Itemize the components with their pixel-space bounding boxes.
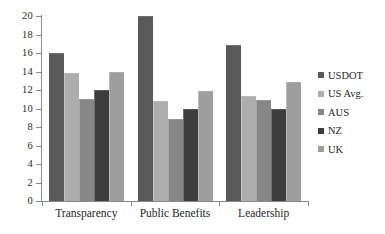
x-axis-tick: [219, 201, 220, 206]
plot-area: [42, 16, 308, 201]
y-axis-tick-label: 6: [0, 141, 33, 152]
x-axis-tick: [308, 201, 309, 206]
legend-swatch-icon: [318, 146, 324, 152]
bar-group: [49, 16, 124, 201]
y-axis-tick-label: 12: [0, 85, 33, 96]
bar: [198, 91, 213, 201]
chart-legend: USDOTUS Avg.AUSNZUK: [318, 66, 385, 159]
y-axis-tick-label: 8: [0, 122, 33, 133]
legend-item-us-avg[interactable]: US Avg.: [318, 85, 385, 104]
y-axis-tick-label: 16: [0, 48, 33, 59]
x-axis-line: [41, 201, 309, 202]
bar: [286, 82, 301, 201]
bar: [183, 109, 198, 202]
y-axis-tick-label: 14: [0, 67, 33, 78]
bar: [109, 72, 124, 202]
bar: [153, 101, 168, 201]
legend-item-label: USDOT: [328, 70, 363, 81]
bar-chart: 20181614121086420 USDOTUS Avg.AUSNZUK Tr…: [0, 0, 385, 234]
bar-group: [226, 16, 301, 201]
x-axis-tick: [131, 201, 132, 206]
y-axis-tick-label: 4: [0, 159, 33, 170]
y-axis-tick-label: 2: [0, 178, 33, 189]
legend-swatch-icon: [318, 128, 324, 134]
y-axis-tick-label: 0: [0, 196, 33, 207]
y-axis-tick-label: 20: [0, 11, 33, 22]
bar: [271, 109, 286, 201]
y-axis-tick-label: 10: [0, 104, 33, 115]
bar: [168, 119, 183, 201]
bar: [64, 73, 79, 201]
bar: [226, 45, 241, 201]
x-axis-category-label: Transparency: [42, 207, 131, 220]
legend-item-aus[interactable]: AUS: [318, 103, 385, 122]
x-axis-tick: [42, 201, 43, 206]
bar: [256, 100, 271, 201]
legend-swatch-icon: [318, 72, 324, 78]
legend-item-label: UK: [328, 144, 343, 155]
legend-item-label: NZ: [328, 125, 342, 136]
x-axis-category-label: Public Benefits: [131, 207, 220, 220]
bar: [49, 53, 64, 201]
bar: [79, 99, 94, 201]
x-axis-category-label: Leadership: [219, 207, 308, 220]
legend-swatch-icon: [318, 91, 324, 97]
legend-swatch-icon: [318, 109, 324, 115]
bar: [94, 90, 109, 201]
legend-item-label: AUS: [328, 107, 349, 118]
bar: [241, 96, 256, 201]
legend-item-uk[interactable]: UK: [318, 140, 385, 159]
bar-group: [138, 16, 213, 201]
bar: [138, 16, 153, 201]
legend-item-usdot[interactable]: USDOT: [318, 66, 385, 85]
y-axis-tick-label: 18: [0, 30, 33, 41]
legend-item-label: US Avg.: [328, 88, 363, 99]
legend-item-nz[interactable]: NZ: [318, 122, 385, 141]
